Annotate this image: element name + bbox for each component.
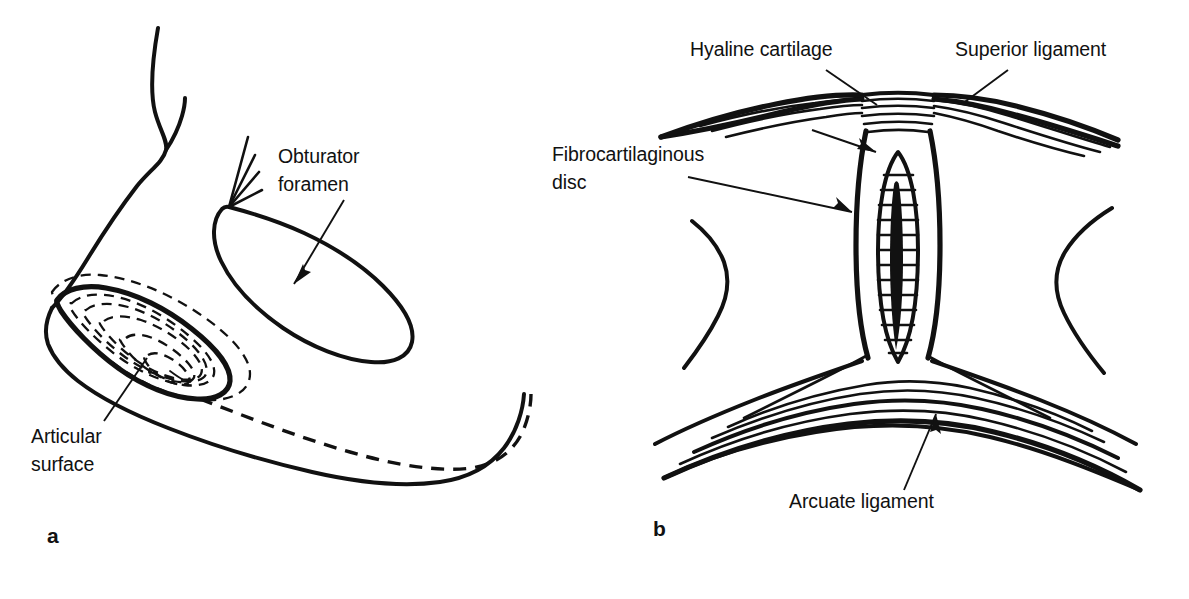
arcuate-ligament-label: Arcuate ligament [789,490,934,512]
hyaline-cartilage-label: Hyaline cartilage [690,38,832,60]
obturator-foramen-label-line2: foramen [278,173,349,195]
canvas-background [0,0,1189,599]
superior-ligament-label: Superior ligament [955,38,1107,60]
panel-a-letter: a [47,524,59,547]
figure-canvas: Obturator foramen Articular surface a [0,0,1189,599]
articular-surface-label-line1: Articular [31,425,102,447]
panel-b-letter: b [653,517,666,540]
obturator-foramen-label-line1: Obturator [278,145,360,167]
fibrocartilaginous-disc-label-line2: disc [552,171,587,193]
articular-surface-label-line2: surface [31,453,94,475]
anatomical-figure: Obturator foramen Articular surface a [0,0,1189,599]
fibrocartilaginous-disc-label-line1: Fibrocartilaginous [552,143,704,165]
